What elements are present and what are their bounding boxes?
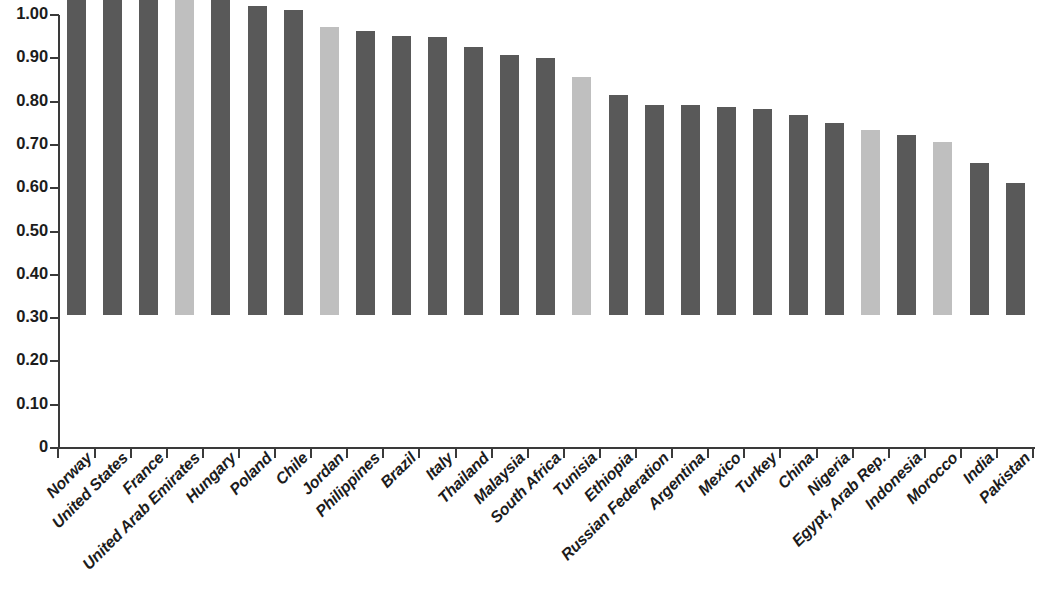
bar [211,0,230,315]
bar [428,37,447,315]
bar-chart: 00.100.200.300.400.500.600.700.800.901.0… [0,0,1042,593]
bar [572,77,591,315]
x-axis-category-labels: NorwayUnited StatesFranceUnited Arab Emi… [0,449,1042,593]
bar [464,47,483,315]
x-axis-category-label: Brazil [375,449,421,495]
bar [248,6,267,315]
x-axis-category-label-text: Brazil [375,449,421,495]
bar [681,105,700,315]
bar [392,36,411,315]
bar [825,123,844,315]
bar [717,107,736,315]
bar [789,115,808,315]
bar [645,105,664,315]
bar [320,27,339,315]
bar [753,109,772,315]
bar [67,0,86,315]
bar [103,0,122,315]
bar [933,142,952,315]
bar [500,55,519,315]
bar [175,0,194,315]
bar [609,95,628,315]
bar [970,163,989,315]
bar [139,0,158,315]
bar [356,31,375,315]
bar [536,58,555,315]
bar [861,130,880,315]
bar [1006,183,1025,315]
bar [897,135,916,315]
bars-container [0,0,1042,460]
bar [284,10,303,315]
